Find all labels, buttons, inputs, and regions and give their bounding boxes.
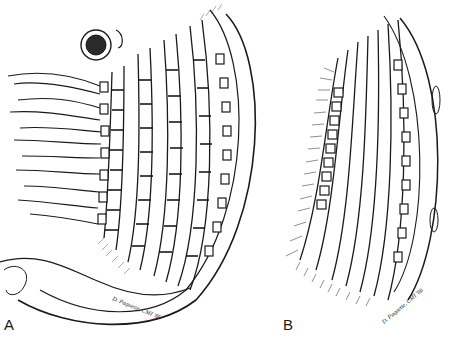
panel-label-a: A — [4, 316, 14, 333]
lamella-a-2b — [140, 48, 152, 270]
signature-b: D. Paquette, CMI '86 — [380, 287, 424, 325]
lamella-a-3b — [166, 34, 181, 282]
panel-label-b: B — [283, 316, 293, 333]
lamella-a-1b — [116, 66, 124, 250]
base-loop-a — [4, 266, 27, 294]
panel-b-illustration: D. Paquette, CMI '86 — [286, 16, 440, 325]
lamella-a-2 — [128, 54, 139, 262]
base-curve-a — [0, 258, 190, 294]
panel-a-illustration: D. Paquette, CMI '86 — [0, 4, 255, 324]
vessel-inner — [86, 35, 106, 55]
illustration-figure: D. Paquette, CMI '86 — [0, 0, 454, 341]
lamella-a-3 — [154, 40, 168, 276]
hook-a — [116, 30, 122, 48]
